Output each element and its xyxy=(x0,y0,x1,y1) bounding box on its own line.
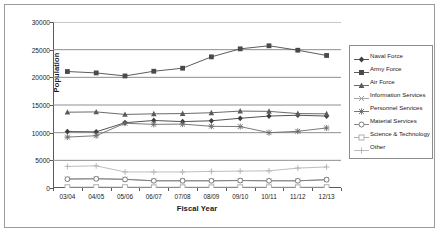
x-tick-label: 10/11 xyxy=(261,193,277,200)
data-point-marker xyxy=(209,54,214,59)
legend-label: Air Force xyxy=(370,79,395,85)
x-tick-label: 07/08 xyxy=(175,193,191,200)
data-point-marker xyxy=(267,178,272,183)
chart-frame: Population Fiscal Year 05000100001500020… xyxy=(4,4,435,228)
series-material-services xyxy=(65,176,329,183)
legend-label: Personnel Services xyxy=(370,105,423,111)
data-point-marker xyxy=(266,113,271,119)
data-point-marker xyxy=(151,121,157,127)
data-point-marker xyxy=(123,177,128,182)
data-point-marker xyxy=(64,134,70,140)
legend-label: Naval Force xyxy=(370,53,403,59)
data-point-marker xyxy=(295,185,300,188)
data-point-marker xyxy=(209,118,214,124)
data-point-marker xyxy=(65,185,70,188)
series-line xyxy=(67,179,326,181)
data-point-marker xyxy=(295,165,301,171)
y-tick-mark xyxy=(50,22,53,23)
series-line xyxy=(67,166,326,172)
data-point-marker xyxy=(123,185,128,188)
data-point-marker xyxy=(324,164,330,170)
data-point-marker xyxy=(324,185,329,188)
legend-item-army-force[interactable]: Army Force xyxy=(353,63,430,76)
data-point-marker xyxy=(180,169,186,175)
data-point-marker xyxy=(65,69,70,74)
data-point-marker xyxy=(238,178,243,183)
x-tick-mark xyxy=(139,188,140,191)
plot-wrapper: Population Fiscal Year 05000100001500020… xyxy=(53,22,341,188)
y-tick-label: 30000 xyxy=(32,19,50,26)
y-tick-label: 25000 xyxy=(32,46,50,53)
circle-marker-icon xyxy=(353,116,370,127)
data-point-marker xyxy=(324,125,330,131)
data-point-marker xyxy=(151,69,156,74)
x-tick-label: 11/12 xyxy=(290,193,306,200)
x-tick-mark xyxy=(111,188,112,191)
chart-legend: Naval ForceArmy ForceAir ForceInformatio… xyxy=(349,45,433,159)
legend-item-information-services[interactable]: Information Services xyxy=(353,89,430,102)
data-point-marker xyxy=(65,129,70,135)
data-point-marker xyxy=(238,185,243,188)
series-line xyxy=(67,123,326,137)
x-axis-title: Fiscal Year xyxy=(53,204,341,213)
legend-item-other[interactable]: Other xyxy=(353,141,430,154)
data-point-marker xyxy=(237,124,243,130)
x-tick-mark xyxy=(255,188,256,191)
data-point-marker xyxy=(324,177,329,182)
x-tick-mark xyxy=(226,188,227,191)
square-marker-icon xyxy=(353,64,370,75)
data-point-marker xyxy=(209,178,214,183)
legend-item-personnel-services[interactable]: Personnel Services xyxy=(353,102,430,115)
data-point-marker xyxy=(266,130,272,136)
y-tick-label: 5000 xyxy=(35,157,50,164)
series-army-force xyxy=(65,43,329,78)
legend-label: Science & Technology xyxy=(370,131,430,137)
triangle-marker-icon xyxy=(353,77,370,88)
x-tick-label: 08/09 xyxy=(203,193,219,200)
x-tick-label: 06/07 xyxy=(146,193,162,200)
plus-marker-icon xyxy=(353,142,370,153)
series-personnel-services xyxy=(64,120,329,140)
x-tick-label: 03/04 xyxy=(59,193,75,200)
legend-item-science-technology[interactable]: Science & Technology xyxy=(353,128,430,141)
data-point-marker xyxy=(151,185,156,188)
series-line xyxy=(67,46,326,76)
legend-item-air-force[interactable]: Air Force xyxy=(353,76,430,89)
x-tick-mark xyxy=(283,188,284,191)
x-tick-mark xyxy=(53,188,54,191)
data-point-marker xyxy=(237,168,243,174)
data-point-marker xyxy=(93,133,99,139)
data-point-marker xyxy=(266,168,272,174)
data-point-marker xyxy=(267,43,272,48)
y-tick-label: 0 xyxy=(46,185,50,192)
y-tick-label: 15000 xyxy=(32,102,50,109)
data-point-marker xyxy=(209,185,214,188)
data-point-marker xyxy=(151,169,157,175)
data-point-marker xyxy=(65,164,71,170)
series-information-services xyxy=(65,176,329,183)
diamond-marker-icon xyxy=(353,51,370,62)
legend-item-material-services[interactable]: Material Services xyxy=(353,115,430,128)
data-point-marker xyxy=(65,177,70,182)
legend-label: Information Services xyxy=(370,92,426,98)
data-point-marker xyxy=(122,120,128,126)
x-tick-mark xyxy=(82,188,83,191)
data-point-marker xyxy=(238,46,243,51)
data-point-marker xyxy=(359,70,364,75)
x-tick-mark xyxy=(168,188,169,191)
series-line xyxy=(67,115,326,132)
data-point-marker xyxy=(123,74,128,79)
data-point-marker xyxy=(359,135,364,140)
data-point-marker xyxy=(295,178,300,183)
data-point-marker xyxy=(122,169,128,175)
data-point-marker xyxy=(359,148,365,154)
data-point-marker xyxy=(180,66,185,71)
x-tick-label: 12/13 xyxy=(319,193,335,200)
x-tick-label: 05/06 xyxy=(117,193,133,200)
y-tick-mark xyxy=(50,50,53,51)
legend-item-naval-force[interactable]: Naval Force xyxy=(353,50,430,63)
y-tick-label: 20000 xyxy=(32,74,50,81)
data-point-marker xyxy=(295,48,300,53)
data-point-marker xyxy=(93,163,99,169)
series-other xyxy=(65,163,330,175)
